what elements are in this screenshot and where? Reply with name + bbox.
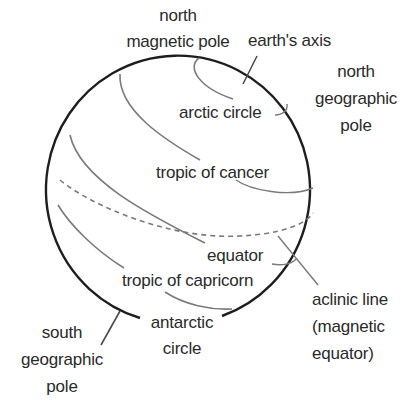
label-line: pole <box>12 377 112 397</box>
label-line: geographic <box>306 89 406 109</box>
north-magnetic-pole-label: north magnetic pole <box>113 6 243 52</box>
south-geographic-pole-label: south geographic pole <box>12 323 112 397</box>
aclinic-line-label: aclinic line (magnetic equator) <box>312 290 388 364</box>
equator-label: equator <box>207 246 263 266</box>
earths-axis-label: earth's axis <box>248 31 331 51</box>
label-line: magnetic pole <box>113 32 243 52</box>
label-line: antarctic <box>140 313 224 333</box>
tropic-of-capricorn-label: tropic of capricorn <box>122 271 253 291</box>
label-line: aclinic line <box>312 290 388 310</box>
equator-leader <box>272 259 296 265</box>
label-line: equator) <box>312 344 388 364</box>
label-line: north <box>306 62 406 82</box>
arctic-circle-label: arctic circle <box>179 103 261 123</box>
label-line: circle <box>140 339 224 359</box>
earth-magnetic-diagram: north magnetic pole earth's axis north g… <box>0 0 414 420</box>
label-line: geographic <box>12 350 112 370</box>
tropic-of-cancer-label: tropic of cancer <box>156 163 269 183</box>
north-geographic-pole-label: north geographic pole <box>306 62 406 136</box>
antarctic-circle-label: antarctic circle <box>140 313 224 359</box>
aclinic-line <box>60 180 313 236</box>
label-line: south <box>12 323 112 343</box>
label-line: pole <box>306 116 406 136</box>
label-line: north <box>113 6 243 26</box>
antarctic-circle-line <box>165 292 232 309</box>
tropic-of-capricorn-line <box>58 205 124 268</box>
label-line: (magnetic <box>312 317 388 337</box>
